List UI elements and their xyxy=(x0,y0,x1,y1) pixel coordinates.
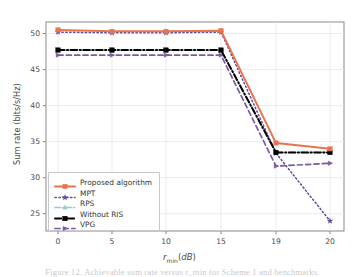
data-point-marker xyxy=(56,28,60,32)
y-tick-label: 35 xyxy=(28,137,40,146)
legend-label: VPG xyxy=(80,219,95,230)
data-point-marker xyxy=(110,48,115,53)
chart-figure xyxy=(0,0,359,277)
x-tick-label: 19 xyxy=(266,237,286,246)
data-point-marker xyxy=(219,48,224,53)
y-axis-title: Sum rate (bits/s/Hz) xyxy=(12,83,22,165)
legend-label: MPT xyxy=(80,188,95,199)
legend-label: RPS xyxy=(80,198,94,209)
legend-swatch-proposed-algorithm xyxy=(54,177,76,188)
data-point-marker xyxy=(56,48,61,53)
legend-swatch-rps xyxy=(54,198,76,209)
data-point-marker xyxy=(274,141,278,145)
legend-item-mpt[interactable]: MPT xyxy=(54,188,158,199)
x-tick-label: 0 xyxy=(48,237,68,246)
legend-key-glyph xyxy=(54,223,76,234)
legend-swatch-vpg xyxy=(54,219,76,230)
data-point-marker xyxy=(164,29,168,33)
chart-legend: Proposed algorithm MPT RPS Without RIS V… xyxy=(48,172,160,231)
data-point-marker xyxy=(164,48,169,53)
x-tick-label: 15 xyxy=(211,237,231,246)
y-tick-label: 50 xyxy=(28,29,40,38)
x-tick-label: 10 xyxy=(156,237,176,246)
y-tick-label: 25 xyxy=(28,209,40,218)
legend-label: Proposed algorithm xyxy=(80,177,152,188)
y-tick-label: 45 xyxy=(28,65,40,74)
legend-label: Without RIS xyxy=(80,209,123,220)
legend-swatch-without-ris xyxy=(54,209,76,220)
y-tick-label: 40 xyxy=(28,101,40,110)
data-point-marker xyxy=(328,147,332,151)
data-point-marker xyxy=(63,227,68,231)
y-tick-label: 30 xyxy=(28,173,40,182)
figure-caption: Figure 12. Achievable sum rate versus r_… xyxy=(14,268,351,277)
x-axis-title: rmin(dB) xyxy=(0,252,359,264)
legend-swatch-mpt xyxy=(54,188,76,199)
data-point-marker xyxy=(110,29,114,33)
x-tick-label: 20 xyxy=(320,237,340,246)
x-tick-label: 5 xyxy=(102,237,122,246)
data-point-marker xyxy=(274,150,279,155)
legend-item-proposed-algorithm[interactable]: Proposed algorithm xyxy=(54,177,158,188)
legend-item-without-ris[interactable]: Without RIS xyxy=(54,209,158,220)
legend-item-vpg[interactable]: VPG xyxy=(54,219,158,230)
data-point-marker xyxy=(219,28,223,32)
legend-item-rps[interactable]: RPS xyxy=(54,198,158,209)
